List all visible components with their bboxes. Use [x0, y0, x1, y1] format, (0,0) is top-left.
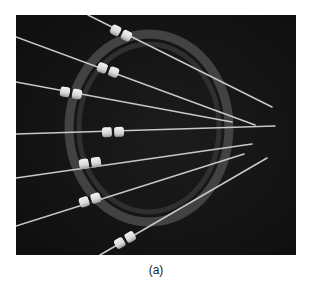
photo-canvas — [16, 15, 296, 255]
bead-pair — [102, 127, 124, 138]
needle-beads-photo — [16, 15, 296, 255]
figure-caption: (a) — [0, 263, 312, 277]
